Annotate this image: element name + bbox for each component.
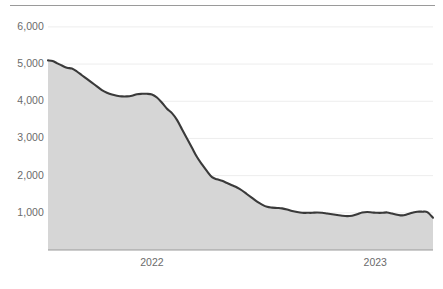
area-chart-plot	[0, 0, 443, 289]
x-axis-tick-label: 2023	[364, 257, 387, 268]
x-axis-tick-label: 2022	[140, 257, 163, 268]
area-fill-path	[48, 60, 433, 250]
chart-container: 6,0005,0004,0003,0002,0001,000 20222023	[0, 0, 443, 289]
